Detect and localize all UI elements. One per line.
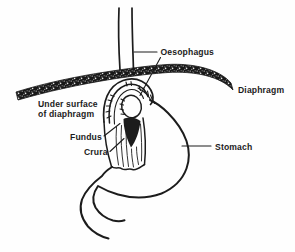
fundus-label: Fundus (70, 132, 102, 142)
diagram-drawing: Oesophagus Diaphragm Under surface of di… (0, 0, 295, 252)
duodenum-outline (81, 167, 112, 239)
under-surface-label-line1: Under surface (38, 99, 98, 109)
fundus-leader (104, 124, 120, 137)
under-surface-label-line2: of diaphragm (38, 109, 94, 119)
anatomy-diagram: Oesophagus Diaphragm Under surface of di… (0, 0, 295, 252)
oesophagus-tube (119, 8, 134, 71)
diaphragm-band (16, 64, 233, 100)
crura-label: Crura (84, 147, 108, 157)
diaphragm-label: Diaphragm (238, 85, 284, 95)
oesophagus-stub-oval (120, 93, 144, 119)
stomach-label: Stomach (215, 142, 252, 152)
oesophagus-label: Oesophagus (161, 47, 215, 57)
